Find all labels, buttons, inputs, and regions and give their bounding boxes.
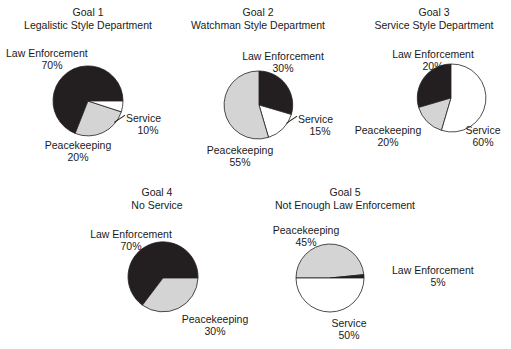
slice-label-name: Law Enforcement [392,264,484,276]
chart-title-goal-5: Goal 5 Not Enough Law Enforcement [275,186,415,211]
chart-title-line1: Goal 5 [275,186,415,199]
pie-graphic-goal-3 [417,64,485,132]
slice-label-value: 50% [331,329,366,341]
slice-label-peacekeeping-goal-1: Peacekeeping 20% [45,139,112,164]
slice-label-value: 70% [90,240,172,252]
chart-title-goal-1: Goal 1 Legalistic Style Department [24,6,152,31]
figure-canvas: Goal 1 Legalistic Style Department Law E… [0,0,511,349]
slice-label-name: Peacekeeping [273,224,340,236]
chart-title-line2: Legalistic Style Department [24,19,152,32]
pie-graphic-goal-1 [53,66,123,136]
slice-label-name: Service [298,113,342,125]
slice-label-name: Peacekeeping [207,144,274,156]
slice-label-name: Peacekeeping [182,313,249,325]
chart-title-goal-2: Goal 2 Watchman Style Department [191,6,325,31]
slice-label-name: Law Enforcement [6,47,98,59]
slice-label-name: Law Enforcement [392,48,474,60]
slice-label-name: Law Enforcement [242,50,324,62]
slice-label-value: 15% [298,125,342,137]
slice-label-value: 10% [126,124,170,136]
slice-label-name: Law Enforcement [90,228,172,240]
slice-label-name: Peacekeeping [45,139,112,151]
chart-title-line2: Not Enough Law Enforcement [275,199,415,212]
chart-title-line1: Goal 4 [131,186,182,199]
chart-title-line2: No Service [131,199,182,212]
slice-label-peacekeeping-goal-2: Peacekeeping 55% [207,144,274,169]
slice-label-value: 20% [355,136,422,148]
slice-label-law-enforcement-goal-3: Law Enforcement 20% [392,48,474,73]
slice-label-service-goal-1: Service 10% [126,112,170,137]
chart-title-line1: Goal 2 [191,6,325,19]
chart-title-line2: Service Style Department [374,19,493,32]
slice-label-value: 5% [392,276,484,288]
slice-label-name: Service [331,317,366,329]
pie-slice-service [296,278,364,312]
pie-graphic-goal-2 [225,71,293,139]
chart-title-line1: Goal 1 [24,6,152,19]
slice-label-value: 20% [392,60,474,72]
slice-label-law-enforcement-goal-1: Law Enforcement 70% [6,47,98,72]
slice-label-law-enforcement-goal-4: Law Enforcement 70% [90,228,172,253]
slice-label-name: Service [465,124,500,136]
slice-label-service-goal-3: Service 60% [465,124,500,149]
chart-title-goal-3: Goal 3 Service Style Department [374,6,493,31]
slice-label-value: 30% [182,325,249,337]
pie-graphic-goal-4 [128,243,198,313]
slice-label-peacekeeping-goal-3: Peacekeeping 20% [355,124,422,149]
slice-label-peacekeeping-goal-5: Peacekeeping 45% [273,224,340,249]
pie-slice-peacekeeping [296,244,364,278]
slice-label-value: 70% [6,59,98,71]
slice-label-service-goal-5: Service 50% [331,317,366,342]
slice-label-value: 60% [465,136,500,148]
slice-label-value: 30% [242,62,324,74]
slice-label-law-enforcement-goal-5: Law Enforcement 5% [392,264,484,289]
slice-label-name: Service [126,112,170,124]
slice-label-name: Peacekeeping [355,124,422,136]
chart-title-line2: Watchman Style Department [191,19,325,32]
slice-label-value: 20% [45,151,112,163]
chart-title-goal-4: Goal 4 No Service [131,186,182,211]
slice-label-value: 55% [207,156,274,168]
slice-label-value: 45% [273,236,340,248]
slice-label-peacekeeping-goal-4: Peacekeeping 30% [182,313,249,338]
slice-label-service-goal-2: Service 15% [298,113,342,138]
chart-title-line1: Goal 3 [374,6,493,19]
pie-graphic-goal-5 [296,244,364,312]
slice-label-law-enforcement-goal-2: Law Enforcement 30% [242,50,324,75]
